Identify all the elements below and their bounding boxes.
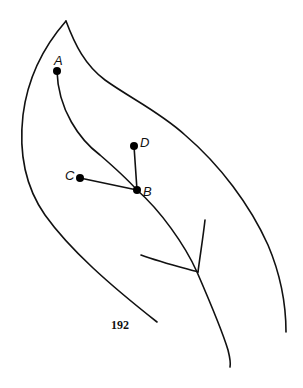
vein-c-to-b (80, 178, 137, 190)
node-c-dot (76, 174, 84, 182)
vein-d-to-b (134, 146, 137, 190)
node-c-label: C (65, 168, 75, 183)
node-b-label: B (143, 184, 152, 199)
vein-branch-up (198, 220, 205, 272)
node-d-label: D (140, 135, 149, 150)
page-number: 192 (111, 318, 129, 333)
leaf-outline-right (66, 21, 286, 332)
leaf-vein-diagram: A B C D (0, 0, 303, 388)
node-d-dot (130, 142, 138, 150)
midrib-vein-lower (137, 190, 230, 367)
node-b-dot (133, 186, 141, 194)
node-a-dot (53, 67, 61, 75)
node-a-label: A (53, 53, 63, 68)
